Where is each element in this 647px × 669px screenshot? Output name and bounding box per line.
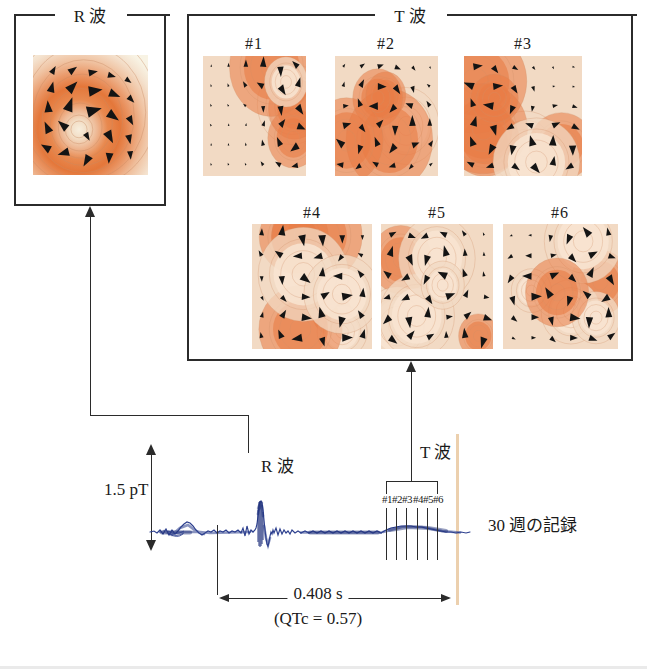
tick-label-n1: #1 — [382, 494, 392, 506]
r-group-top-left-rule — [14, 14, 55, 16]
panel-label-n1: #1 — [245, 36, 263, 52]
figure-root: R 波 — [0, 0, 647, 669]
ecg-r-spike — [258, 501, 263, 547]
r-wave-connector-vertical-lower — [248, 415, 249, 453]
ecg-t-wave-label: T 波 — [420, 444, 451, 462]
field-map-n4 — [252, 224, 372, 349]
qtc-label: (QTc = 0.57) — [274, 610, 362, 628]
q-onset-marker-line — [217, 525, 218, 595]
t-group-top-right-rule — [447, 14, 637, 16]
field-map-n3 — [464, 56, 582, 176]
field-map-svg — [252, 224, 372, 349]
t-group-top-left-rule — [187, 14, 375, 16]
tick-line-n3 — [406, 508, 407, 560]
r-wave-connector-vertical-upper — [90, 216, 91, 416]
ecg-waveform — [150, 500, 470, 560]
field-map-n5 — [381, 224, 493, 349]
tick-line-n6 — [437, 508, 438, 560]
tick-label-n3: #3 — [402, 494, 412, 506]
tick-line-n5 — [427, 508, 428, 560]
tick-label-n2: #2 — [392, 494, 402, 506]
ecg-r-wave-label: R 波 — [261, 458, 294, 476]
field-map-n2 — [335, 56, 438, 176]
tick-line-n1 — [386, 508, 387, 560]
field-map-svg — [464, 56, 582, 176]
r-wave-field-map — [33, 55, 148, 175]
panel-label-n3: #3 — [514, 36, 532, 52]
tick-label-n4: #4 — [413, 494, 423, 506]
field-map-svg — [335, 56, 438, 176]
panel-label-n4: #4 — [303, 205, 321, 221]
panel-label-n6: #6 — [551, 205, 569, 221]
tick-line-n4 — [417, 508, 418, 560]
field-map-n1 — [203, 56, 306, 176]
amplitude-scale-label: 1.5 pT — [104, 481, 148, 499]
tick-label-n5: #5 — [423, 494, 433, 506]
panel-label-n2: #2 — [377, 36, 395, 52]
field-map-svg — [381, 224, 493, 349]
panel-label-n5: #5 — [428, 205, 446, 221]
t-wave-connector-vertical — [411, 371, 412, 481]
r-wave-map-svg — [33, 55, 148, 175]
duration-label: 0.408 s — [287, 585, 348, 603]
r-group-top-right-rule — [127, 14, 170, 16]
field-map-svg — [203, 56, 306, 176]
tick-label-n6: #6 — [433, 494, 443, 506]
ecg-trace-path — [150, 501, 470, 546]
duration-arrow-right — [441, 594, 451, 602]
record-duration-label: 30 週の記録 — [488, 517, 577, 535]
tick-line-n2 — [396, 508, 397, 560]
ecg-trace-density — [160, 504, 460, 545]
t-wave-bracket-horizontal — [386, 481, 437, 482]
t-wave-group-label: T 波 — [388, 8, 431, 25]
field-map-svg — [503, 224, 618, 349]
r-wave-group-label: R 波 — [68, 8, 113, 25]
ecg-trace-core — [162, 503, 446, 533]
field-map-n6 — [503, 224, 618, 349]
r-wave-connector-horizontal — [90, 415, 249, 416]
